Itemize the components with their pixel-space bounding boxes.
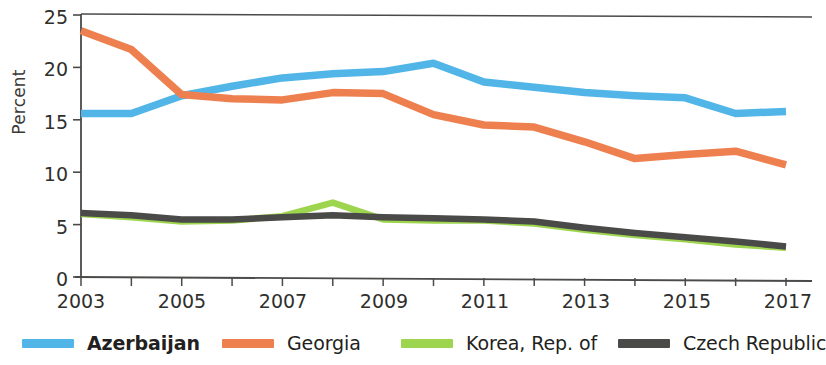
plot-area bbox=[0, 0, 825, 330]
legend-label-azerbaijan: Azerbaijan bbox=[87, 332, 200, 354]
legend-swatch-georgia bbox=[222, 339, 274, 348]
x-axis-line bbox=[75, 277, 812, 281]
legend-item-azerbaijan[interactable]: Azerbaijan bbox=[22, 332, 200, 354]
legend-item-czech-republic[interactable]: Czech Republic bbox=[618, 332, 826, 354]
series-line-azerbaijan bbox=[81, 63, 786, 113]
legend-item-korea[interactable]: Korea, Rep. of bbox=[401, 332, 597, 354]
plot-top-border bbox=[81, 14, 812, 17]
chart-legend: Azerbaijan Georgia Korea, Rep. of Czech … bbox=[0, 330, 825, 365]
series-line-korea-rep-of bbox=[81, 203, 786, 248]
legend-item-georgia[interactable]: Georgia bbox=[222, 332, 361, 354]
legend-label-georgia: Georgia bbox=[287, 332, 361, 354]
legend-swatch-czech-republic bbox=[618, 339, 670, 348]
legend-swatch-azerbaijan bbox=[22, 339, 74, 348]
y-axis-ticks bbox=[73, 15, 81, 277]
x-axis-ticks bbox=[81, 278, 786, 286]
legend-label-korea: Korea, Rep. of bbox=[466, 332, 597, 354]
data-series-lines bbox=[81, 31, 786, 248]
legend-swatch-korea bbox=[401, 339, 453, 348]
legend-label-czech-republic: Czech Republic bbox=[683, 332, 826, 354]
